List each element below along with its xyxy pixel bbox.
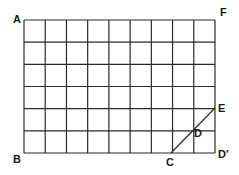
label-d: D bbox=[194, 127, 202, 139]
label-c: C bbox=[166, 156, 174, 168]
grid-lines bbox=[24, 20, 215, 153]
label-e: E bbox=[218, 102, 225, 114]
label-f: F bbox=[220, 6, 227, 18]
label-d-prime: D′ bbox=[218, 148, 229, 160]
label-b: B bbox=[13, 153, 21, 165]
label-a: A bbox=[13, 13, 21, 25]
grid-diagram: A F B C D D′ E bbox=[0, 0, 239, 175]
